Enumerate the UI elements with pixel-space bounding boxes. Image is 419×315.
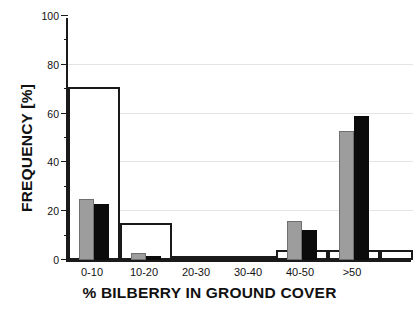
plot-area: 020406080100	[66, 18, 411, 262]
y-tick-label-100: 100	[41, 10, 59, 22]
bar-gray-10-20	[131, 253, 146, 260]
bar-gray-40-50	[287, 221, 302, 260]
x-tick-label-20-30: 20-30	[182, 266, 210, 278]
y-tick-label-60: 60	[47, 108, 59, 120]
bar-gray->50	[339, 131, 354, 260]
y-tick-80	[61, 64, 68, 65]
y-tick-label-20: 20	[47, 205, 59, 217]
bars	[68, 18, 411, 260]
x-tick-label->50: >50	[343, 266, 362, 278]
y-tick-40	[61, 161, 68, 162]
y-tick-label-0: 0	[53, 254, 59, 266]
x-tick-label-40-50: 40-50	[286, 266, 314, 278]
y-tick-label-40: 40	[47, 156, 59, 168]
x-tick-label-30-40: 30-40	[234, 266, 262, 278]
y-tick-0	[61, 259, 68, 260]
x-axis-title: % BILBERRY IN GROUND COVER	[0, 284, 419, 302]
bar-black-10-20	[146, 256, 161, 260]
y-tick-100	[61, 15, 68, 16]
bar-white-30-40	[224, 256, 276, 260]
bar-white-20-30	[172, 256, 224, 260]
y-tick-20	[61, 210, 68, 211]
x-tick-label-10-20: 10-20	[130, 266, 158, 278]
y-tick-60	[61, 113, 68, 114]
bar-black->50	[354, 116, 369, 260]
bar-black-0-10	[94, 204, 109, 260]
y-axis-title: FREQUENCY [%]	[18, 28, 36, 268]
x-tick-label-0-10: 0-10	[81, 266, 103, 278]
bar-gray-0-10	[79, 199, 94, 260]
bar-white-10-20	[120, 223, 172, 260]
bar-black-40-50	[302, 230, 317, 261]
figure: FREQUENCY [%] 020406080100 0-1010-2020-3…	[0, 0, 419, 315]
bar-white-tail	[380, 250, 413, 260]
y-tick-label-80: 80	[47, 59, 59, 71]
